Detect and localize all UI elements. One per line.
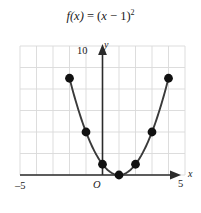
origin-label: O [93, 179, 101, 190]
data-point [98, 160, 107, 169]
data-point [131, 160, 140, 169]
x-axis-tick-label-max: 5 [178, 178, 183, 189]
data-point [115, 171, 124, 180]
y-axis-tick-label-10: 10 [77, 45, 88, 56]
data-point [148, 128, 157, 137]
data-point [65, 74, 74, 83]
x-axis-name-label: x [188, 168, 192, 179]
data-point [82, 128, 91, 137]
y-axis-name-label: y [104, 39, 108, 50]
figure-root: f(x) = (x − 1)2 [0, 0, 201, 213]
x-axis-tick-label-min: –5 [15, 180, 26, 191]
data-point [164, 74, 173, 83]
